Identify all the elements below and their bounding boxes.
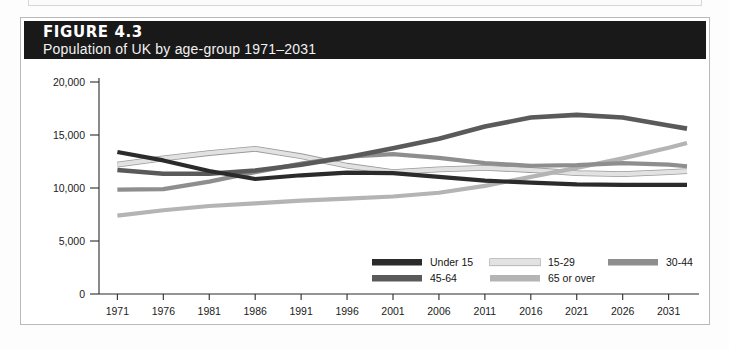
figure-title-text: FIGURE 4.3 Population of UK by age-group… — [43, 24, 316, 58]
y-axis-tick-label: 10,000 — [53, 182, 85, 194]
legend-item: Under 15 — [372, 256, 473, 268]
x-axis-tick-label: 2026 — [611, 305, 635, 317]
legend-item: 45-64 — [372, 272, 457, 284]
x-axis-tick-label: 1971 — [106, 305, 130, 317]
x-axis-tick-label: 2016 — [519, 305, 543, 317]
x-axis-tick-label: 1996 — [335, 305, 359, 317]
legend-swatch — [372, 275, 422, 282]
legend-swatch — [372, 259, 422, 266]
legend-swatch — [490, 275, 540, 282]
figure-title-band: FIGURE 4.3 Population of UK by age-group… — [21, 18, 709, 59]
y-axis-tick-label: 5,000 — [59, 235, 85, 247]
y-axis-tick-label: 15,000 — [53, 129, 85, 141]
x-axis-tick-label: 2011 — [474, 305, 497, 317]
line-chart: 05,00010,00015,00020,0001971197619811986… — [21, 59, 709, 325]
figure-number: FIGURE 4.3 — [43, 24, 316, 41]
y-axis-tick-label: 20,000 — [53, 76, 85, 88]
legend-item: 15-29 — [489, 256, 575, 268]
legend-item: 30-44 — [608, 256, 693, 268]
x-axis-tick-label: 2021 — [565, 305, 589, 317]
legend-swatch — [608, 259, 658, 266]
legend-label: 45-64 — [430, 272, 457, 284]
chart-plot-area: 05,00010,00015,00020,0001971197619811986… — [21, 59, 709, 325]
x-axis-tick-label: 2006 — [427, 305, 451, 317]
page-top-rule — [28, 0, 702, 6]
x-axis-tick-label: 1976 — [152, 305, 176, 317]
x-axis-tick-label: 2001 — [381, 305, 405, 317]
legend-label: Under 15 — [430, 256, 473, 268]
figure-subtitle: Population of UK by age-group 1971–2031 — [43, 41, 316, 58]
x-axis-tick-label: 1986 — [244, 305, 268, 317]
legend-label: 30-44 — [666, 256, 693, 268]
figure-page: FIGURE 4.3 Population of UK by age-group… — [0, 0, 729, 349]
legend-label: 65 or over — [548, 272, 596, 284]
x-axis-tick-label: 1981 — [198, 305, 222, 317]
x-axis-tick-label: 2031 — [657, 305, 681, 317]
legend-swatch — [490, 259, 540, 266]
y-axis-tick-label: 0 — [79, 288, 85, 300]
legend-label: 15-29 — [548, 256, 575, 268]
legend-item: 65 or over — [490, 272, 596, 284]
x-axis-tick-label: 1991 — [289, 305, 313, 317]
